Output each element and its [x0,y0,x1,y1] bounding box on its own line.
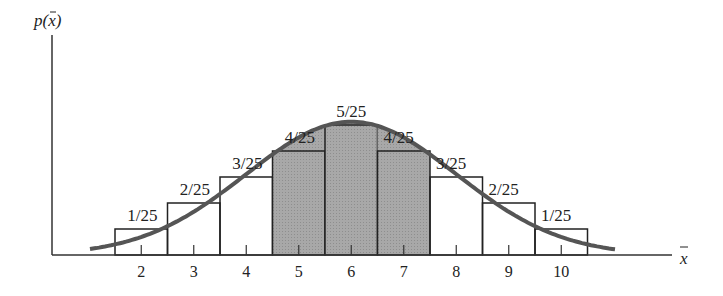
bar-value-label: 4/25 [285,128,315,147]
bar-value-label: 5/25 [336,102,366,121]
shaded-region [325,122,378,255]
bar-value-label: 3/25 [436,154,466,173]
bar-value-label: 2/25 [489,180,519,199]
x-tick-label: 5 [295,263,303,280]
bar-value-label: 1/25 [127,206,157,225]
sampling-distribution-diagram: 2345678910 1/252/253/254/255/254/253/252… [0,0,723,296]
x-tick-label: 2 [137,263,145,280]
x-tick-label: 8 [452,263,460,280]
x-tick-label: 3 [190,263,198,280]
bar-value-label: 4/25 [384,128,414,147]
x-tick-label: 7 [400,263,408,280]
x-tick-label: 10 [553,263,569,280]
bar-value-label: 1/25 [541,206,571,225]
x-tick-label: 6 [347,263,355,280]
x-axis-label: x [679,249,688,268]
x-tick-label: 9 [505,263,513,280]
x-tick-label: 4 [242,263,250,280]
y-axis-label: p(x) [33,11,62,30]
bar-value-label: 3/25 [232,154,262,173]
bar-value-label: 2/25 [180,180,210,199]
